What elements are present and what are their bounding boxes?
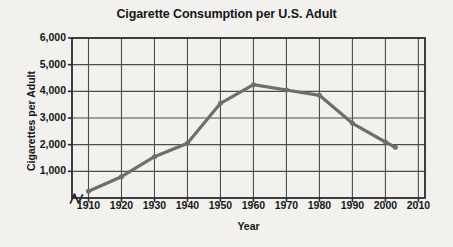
chart-figure: Cigarette Consumption per U.S. Adult Cig… bbox=[0, 0, 453, 247]
plot-area bbox=[0, 0, 453, 247]
data-series-line bbox=[86, 82, 398, 194]
